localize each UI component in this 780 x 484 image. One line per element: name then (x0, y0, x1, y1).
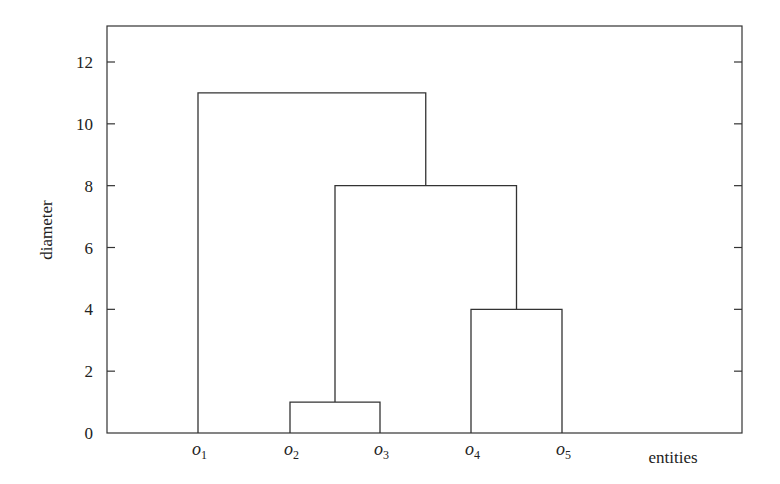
y-axis-label: diameter (37, 200, 56, 260)
y-tick-label: 8 (85, 177, 94, 196)
leaf-label-o2: o2 (284, 439, 299, 462)
leaf-label-o3: o3 (374, 439, 389, 462)
dendrogram-links (198, 93, 562, 433)
x-axis-label: entities (648, 448, 697, 467)
leaf-label-o1: o1 (192, 439, 207, 462)
dendrogram-link (335, 186, 517, 402)
plot-frame (107, 26, 742, 433)
dendrogram-chart: 024681012 o1o2o3o4o5 diameter entities (0, 0, 780, 484)
dendrogram-link (471, 309, 562, 433)
y-tick-label: 12 (76, 53, 93, 72)
y-tick-label: 0 (85, 424, 94, 443)
leaf-label-o5: o5 (556, 439, 571, 462)
y-tick-label: 6 (85, 239, 94, 258)
dendrogram-link (290, 402, 380, 433)
x-axis-leaf-labels: o1o2o3o4o5 (192, 439, 571, 462)
y-tick-label: 4 (85, 300, 94, 319)
dendrogram-link (198, 93, 426, 433)
y-axis-ticks: 024681012 (76, 53, 742, 443)
plot-border (107, 26, 742, 433)
leaf-label-o4: o4 (465, 439, 480, 462)
y-tick-label: 10 (76, 115, 93, 134)
y-tick-label: 2 (85, 362, 94, 381)
